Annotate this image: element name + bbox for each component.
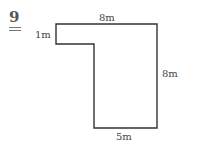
step-height-label: 1m — [35, 29, 51, 40]
right-height-label: 8m — [162, 68, 178, 79]
bottom-length-label: 5m — [116, 131, 132, 142]
top-length-label: 8m — [99, 12, 115, 23]
l-shape-outline — [56, 24, 157, 128]
